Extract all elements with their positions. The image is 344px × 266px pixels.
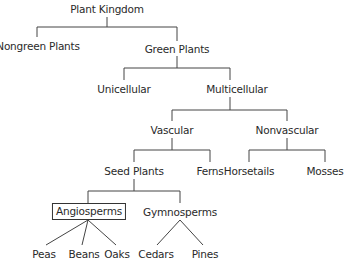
- node-ferns: Ferns: [196, 165, 223, 178]
- node-mosses: Mosses: [306, 165, 343, 178]
- connector-pines: [180, 220, 203, 245]
- node-nonvascular: Nonvascular: [256, 124, 319, 137]
- connector-green-bar: [124, 68, 230, 80]
- connector-cedars: [157, 220, 180, 245]
- node-beans: Beans: [68, 248, 99, 261]
- node-pines: Pines: [192, 248, 219, 261]
- node-plant-kingdom: Plant Kingdom: [70, 3, 144, 16]
- node-multicellular: Multicellular: [206, 83, 267, 96]
- node-horsetails: Horsetails: [224, 165, 274, 178]
- node-unicellular: Unicellular: [97, 83, 150, 96]
- node-green-plants: Green Plants: [145, 43, 210, 56]
- connector-nonvascular-bar: [249, 150, 325, 162]
- node-seed-plants: Seed Plants: [104, 165, 163, 178]
- connector-multicellular-bar: [172, 110, 287, 121]
- node-cedars: Cedars: [138, 248, 173, 261]
- connector-peas: [46, 220, 88, 245]
- node-oaks: Oaks: [104, 248, 129, 261]
- connector-vascular-bar: [134, 150, 210, 162]
- connector-oaks: [88, 220, 116, 245]
- node-gymnosperms: Gymnosperms: [143, 206, 217, 219]
- connector-root-bar: [37, 27, 177, 41]
- connector-beans: [82, 220, 88, 245]
- node-angiosperms: Angiosperms: [52, 203, 126, 220]
- node-peas: Peas: [32, 248, 56, 261]
- node-nongreen-plants: Nongreen Plants: [0, 40, 80, 53]
- node-vascular: Vascular: [151, 124, 194, 137]
- connector-seed-plants-bar: [88, 191, 180, 203]
